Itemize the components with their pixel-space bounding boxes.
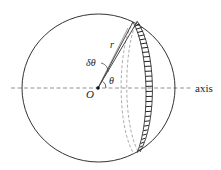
hatch-mark	[141, 47, 148, 48]
center-point	[96, 86, 100, 90]
hatch-mark	[137, 31, 143, 33]
theta-arc	[103, 82, 106, 89]
center-label: O	[86, 88, 94, 100]
hatch-mark	[142, 138, 146, 139]
radius-line-inner	[98, 22, 137, 88]
ring-back-edge-outer	[127, 21, 139, 153]
hatch-mark	[143, 134, 147, 135]
hatch-mark	[144, 125, 149, 126]
sphere-zone-diagram: O r δθ θ axis	[0, 0, 221, 170]
hatch-mark	[136, 27, 142, 29]
hatch-mark	[142, 52, 149, 53]
hatch-mark	[143, 56, 150, 57]
radius-line-extra	[100, 28, 128, 84]
hatched-zone-band	[133, 21, 152, 153]
hatch-mark	[138, 35, 144, 36]
theta-label: θ	[109, 75, 114, 86]
hatch-mark	[141, 43, 148, 44]
delta-theta-label: δθ	[86, 57, 96, 68]
hatch-mark	[139, 39, 145, 40]
axis-label: axis	[195, 82, 213, 94]
hatch-mark	[143, 130, 147, 131]
radius-label: r	[110, 39, 114, 50]
hatch-mark	[145, 121, 150, 122]
